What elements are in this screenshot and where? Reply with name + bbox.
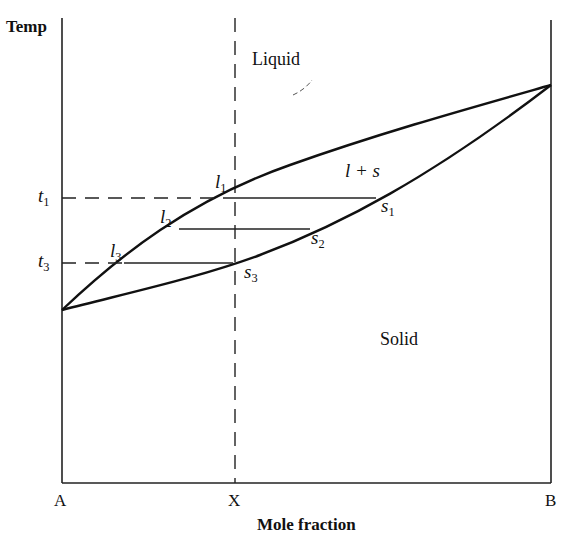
point-l3-label: l3: [110, 241, 121, 264]
y-axis-label: Temp: [6, 18, 47, 35]
y-tick-t3: t3: [38, 251, 49, 274]
region-two-phase-label: l + s: [345, 161, 380, 180]
x-axis-label: Mole fraction: [257, 516, 356, 533]
stray-mark: [293, 80, 312, 95]
x-tick-x: X: [228, 492, 240, 509]
x-tick-a: A: [54, 492, 66, 509]
x-tick-b: B: [545, 492, 556, 509]
region-solid-label: Solid: [380, 330, 418, 348]
point-s1-label: s1: [381, 196, 395, 219]
y-tick-t1: t1: [38, 186, 49, 209]
region-liquid-label: Liquid: [252, 50, 300, 68]
point-s2-label: s2: [311, 228, 325, 251]
point-l2-label: l2: [160, 207, 171, 230]
point-s3-label: s3: [244, 262, 258, 285]
phase-diagram-canvas: [0, 0, 570, 545]
point-l1-label: l1: [215, 172, 226, 195]
